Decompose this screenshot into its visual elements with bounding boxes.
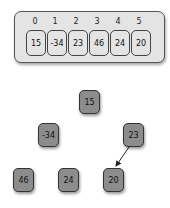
edge-23-to-20 — [116, 147, 129, 166]
tree-node-46: 46 — [13, 168, 34, 192]
tree-node-20: 20 — [103, 168, 124, 192]
tree-node-23: 23 — [123, 123, 144, 147]
tree-node-neg34: -34 — [38, 123, 59, 147]
tree-node-15: 15 — [79, 90, 100, 114]
tree-node-24: 24 — [58, 168, 79, 192]
